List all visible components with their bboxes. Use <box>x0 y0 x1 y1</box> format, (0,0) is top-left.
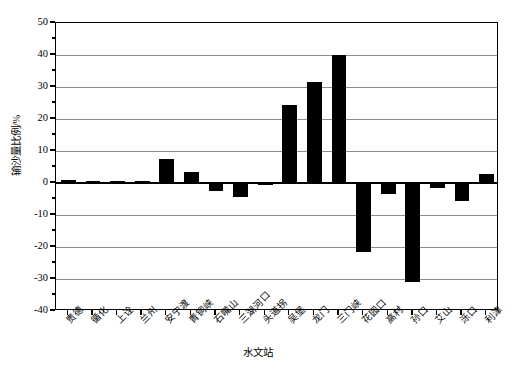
y-axis-minor-tick-mark <box>52 133 55 134</box>
y-axis-minor-tick-mark <box>52 101 55 102</box>
bar <box>307 82 322 183</box>
gridline <box>56 215 497 216</box>
y-axis-tick-label: 20 <box>2 113 48 124</box>
y-axis-tick-label: 10 <box>2 145 48 156</box>
y-axis-tick-label: 40 <box>2 49 48 60</box>
bar <box>159 159 174 183</box>
y-axis-tick-mark <box>50 85 55 86</box>
gridline <box>56 151 497 152</box>
chart-figure: 输沙量比例/% 50403020100-10-20-30-40 水文站 贵德循化… <box>0 0 516 375</box>
bar <box>332 55 347 183</box>
bar <box>135 181 150 183</box>
y-axis-minor-tick-mark <box>52 261 55 262</box>
y-axis-tick-label: 50 <box>2 17 48 28</box>
y-axis-tick-mark <box>50 245 55 246</box>
y-axis-minor-tick-mark <box>52 197 55 198</box>
gridline <box>56 279 497 280</box>
bar <box>430 183 445 188</box>
y-axis-tick-label: -30 <box>2 273 48 284</box>
gridline <box>56 247 497 248</box>
y-axis-tick-label: 0 <box>2 177 48 188</box>
plot-area <box>55 22 498 310</box>
gridline <box>56 87 497 88</box>
bar <box>381 183 396 194</box>
y-axis-tick-mark <box>50 213 55 214</box>
y-axis-tick-label: 30 <box>2 81 48 92</box>
y-axis-minor-tick-mark <box>52 69 55 70</box>
bar <box>258 183 273 185</box>
bar <box>209 183 224 191</box>
bar <box>405 183 420 282</box>
y-axis-tick-mark <box>50 149 55 150</box>
y-axis-minor-tick-mark <box>52 37 55 38</box>
bar <box>233 183 248 197</box>
y-axis-tick-mark <box>50 181 55 182</box>
bar <box>455 183 470 201</box>
y-axis-tick-mark <box>50 21 55 22</box>
bar <box>110 181 125 183</box>
bar <box>479 174 494 183</box>
gridline <box>56 119 497 120</box>
bar <box>61 180 76 183</box>
x-axis-title: 水文站 <box>0 347 516 359</box>
y-axis-tick-mark <box>50 277 55 278</box>
y-axis-tick-mark <box>50 53 55 54</box>
y-axis-tick-label: -40 <box>2 305 48 316</box>
y-axis-tick-mark <box>50 117 55 118</box>
y-axis-minor-tick-mark <box>52 165 55 166</box>
y-axis-minor-tick-mark <box>52 293 55 294</box>
y-axis-tick-label: -10 <box>2 209 48 220</box>
y-axis-tick-labels: 50403020100-10-20-30-40 <box>0 0 48 375</box>
bar <box>282 105 297 183</box>
y-axis-tick-label: -20 <box>2 241 48 252</box>
y-axis-minor-tick-mark <box>52 229 55 230</box>
y-axis-tick-mark <box>50 309 55 310</box>
bar <box>86 181 101 183</box>
gridline <box>56 55 497 56</box>
bar <box>356 183 371 252</box>
bar <box>184 172 199 183</box>
